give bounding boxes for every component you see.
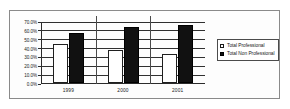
y-axis-tick [38,57,41,58]
bar-2001-total-non-professional [178,25,193,83]
y-axis-tick [38,75,41,76]
bar-1999-total-professional [53,44,68,83]
legend-label: Total Non Professional [227,51,275,57]
y-axis-tick-label: 70.0% [24,20,37,25]
bar-2000-total-non-professional [124,27,139,83]
group-separator [96,16,97,84]
y-axis-tick-label: 20.0% [24,64,37,69]
y-axis-tick [38,48,41,49]
legend-swatch-black-square-icon [220,52,224,56]
legend-item-total-non-professional: Total Non Professional [220,50,275,58]
y-axis-tick-label: 0.0% [27,82,37,87]
gridline [41,22,205,23]
x-axis-category-label: 1999 [63,88,74,94]
bar-2000-total-professional [108,50,123,83]
y-axis-tick-label: 10.0% [24,73,37,78]
y-axis-tick [38,39,41,40]
group-separator [150,16,151,84]
legend-item-total-professional: Total Professional [220,42,275,50]
y-axis-tick [38,22,41,23]
chart-legend: Total Professional Total Non Professiona… [217,39,279,61]
x-axis-category-label: 2000 [117,88,128,94]
chart-frame: 0.0%10.0%20.0%30.0%40.0%50.0%60.0%70.0% … [9,10,280,99]
y-axis-tick-label: 40.0% [24,46,37,51]
y-axis-tick [38,84,41,85]
x-axis-category-label: 2001 [172,88,183,94]
legend-label: Total Professional [227,43,265,49]
bar-1999-total-non-professional [69,33,84,83]
bar-2001-total-professional [162,54,177,83]
y-axis-tick-label: 50.0% [24,37,37,42]
y-axis-tick [38,66,41,67]
y-axis-tick-label: 60.0% [24,28,37,33]
legend-swatch-white-square-icon [220,44,224,48]
plot-area: 0.0%10.0%20.0%30.0%40.0%50.0%60.0%70.0% … [41,22,205,84]
x-axis-line [41,83,205,84]
y-axis-tick [38,30,41,31]
y-axis-tick-label: 30.0% [24,55,37,60]
